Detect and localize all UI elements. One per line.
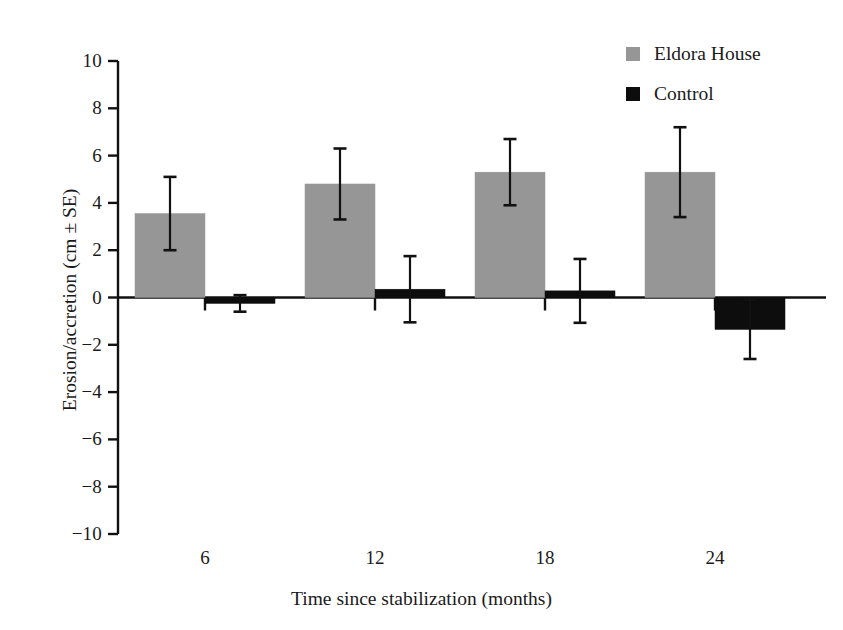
x-tick-label: 12 [335,548,415,567]
figure-container: 1086420−2−4−6−8−10 6121824 Erosion/accre… [0,0,843,630]
x-axis-title: Time since stabilization (months) [0,588,843,610]
legend-label-eldora-house: Eldora House [654,44,761,64]
x-tick-label: 6 [165,548,245,567]
x-tick-label: 24 [675,548,755,567]
x-tick-label: 18 [505,548,585,567]
legend-swatch-eldora-house [626,47,640,61]
legend-item-control: Control [626,74,841,114]
y-tick-label: −10 [40,524,102,543]
legend-label-control: Control [654,84,714,104]
legend-item-eldora-house: Eldora House [626,34,841,74]
chart-legend: Eldora House Control [626,34,841,114]
y-tick-label: 10 [40,51,102,70]
legend-swatch-control [626,87,640,101]
y-axis-title: Erosion/accretion (cm ± SE) [59,100,81,500]
